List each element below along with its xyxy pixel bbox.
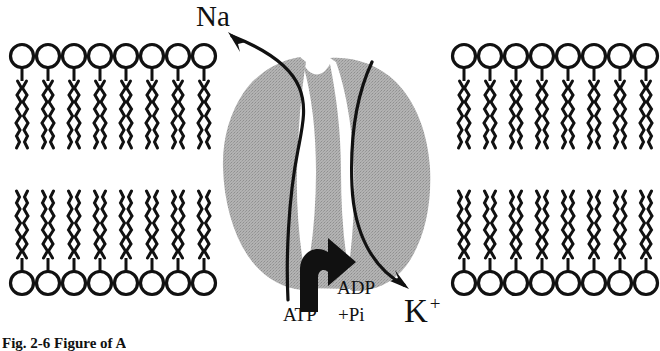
membrane-right-upper-leaflet [453,45,658,149]
sodium-label: Na [196,2,230,31]
membrane-left-patch [11,45,216,295]
potassium-label: K+ [404,294,441,328]
adp-label: ADP [337,278,375,297]
figure-caption: Fig. 2-6 Figure of A [2,336,126,351]
potassium-symbol: K [404,293,428,329]
membrane-left-lower-leaflet [11,191,216,295]
membrane-right-patch [453,45,658,295]
phosphate-label: +Pi [338,305,365,324]
diagram-svg [0,0,660,351]
potassium-charge: + [430,293,441,314]
membrane-left-upper-leaflet [11,45,216,149]
atp-label: ATP [283,305,317,324]
figure-canvas: Na K+ ADP ATP +Pi Fig. 2-6 Figure of A [0,0,660,351]
membrane-right-lower-leaflet [453,191,658,295]
